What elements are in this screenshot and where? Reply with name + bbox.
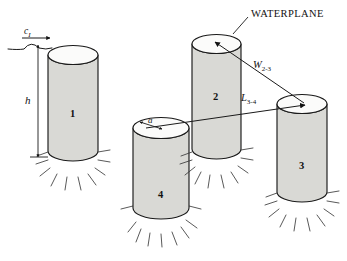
draft-dimension-group [30,45,48,157]
cylinder-3-top [277,95,327,114]
cylinder-2-top [192,35,241,54]
cylinder-4-top [133,118,189,139]
cylinder-1-top [48,46,98,65]
cylinder-4 [121,118,201,248]
spacing-w23-label: W2-3 [253,60,271,71]
wave-profile-curve [8,44,52,49]
wave-celerity-label: cI [24,27,31,37]
waterplane-label: WATERPLANE [251,9,324,20]
cylinder-4-label: 4 [158,190,163,201]
spacing-l34-subscript: 3-4 [247,98,256,106]
cylinder-2 [180,35,253,189]
wave-celerity-subscript: I [28,31,30,39]
cylinder-3-body [277,104,327,202]
radius-label: a [148,116,153,125]
waterplane-leader-line [233,17,248,34]
spacing-w23-subscript: 2-3 [262,65,271,73]
spacing-l34-label: L3-4 [241,93,256,104]
cylinder-3-label: 3 [299,161,304,172]
diagram-svg [0,0,347,261]
cylinder-4-body [133,128,189,219]
spacing-l34-symbol: L [241,92,247,103]
waterplane-leader-group [233,17,248,34]
incident-wave-group [8,38,52,50]
figure-canvas: WATERPLANE cI h a W2-3 L3-4 1 2 3 4 [0,0,347,261]
draft-label: h [25,95,31,106]
cylinder-1-label: 1 [70,109,75,120]
cylinder-2-label: 2 [213,92,218,103]
spacing-w23-symbol: W [253,59,262,70]
